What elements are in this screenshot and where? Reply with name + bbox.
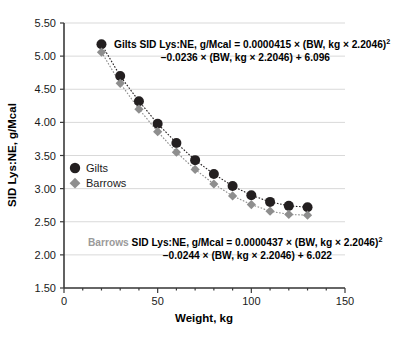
data-point-gilts	[171, 138, 181, 148]
y-tick-label: 5.50	[35, 17, 56, 29]
y-tick-label: 5.00	[35, 50, 56, 62]
data-point-barrows	[247, 200, 256, 209]
y-tick-label: 4.50	[35, 83, 56, 95]
data-point-barrows	[303, 211, 312, 220]
legend-marker-barrows	[70, 178, 81, 189]
y-tick-label: 3.50	[35, 150, 56, 162]
barrows-equation-line-1: Barrows SID Lys:NE, g/Mcal = 0.0000437 ×…	[88, 235, 382, 248]
legend-marker-gilts	[70, 163, 80, 173]
x-tick-label: 50	[152, 295, 164, 307]
legend: Gilts Barrows	[70, 162, 127, 189]
data-point-gilts	[190, 155, 200, 165]
series-markers	[96, 39, 312, 220]
data-point-gilts	[265, 197, 275, 207]
x-axis-title: Weight, kg	[175, 312, 233, 324]
x-tick-label: 100	[242, 295, 260, 307]
barrows-equation-line-2: −0.0244 × (BW, kg × 2.2046) + 6.022	[163, 250, 333, 261]
x-tick-label: 0	[61, 295, 67, 307]
data-point-barrows	[228, 191, 237, 200]
data-point-gilts	[209, 169, 219, 179]
data-point-gilts	[284, 201, 294, 211]
series-line-gilts	[101, 44, 307, 207]
x-axis-tick-labels: 050100150	[61, 295, 354, 307]
data-point-gilts	[246, 190, 256, 200]
y-axis-title: SID Lys:NE, g/Mcal	[6, 103, 18, 207]
legend-label-barrows: Barrows	[86, 177, 127, 189]
data-point-barrows	[284, 210, 293, 219]
y-tick-label: 2.00	[35, 249, 56, 261]
x-tick-label: 150	[336, 295, 354, 307]
chart-container: 1.502.002.503.003.504.004.505.005.50 050…	[0, 0, 412, 337]
y-axis-tick-labels: 1.502.002.503.003.504.004.505.005.50	[35, 17, 56, 294]
y-tick-label: 2.50	[35, 216, 56, 228]
data-point-barrows	[191, 165, 200, 174]
data-point-barrows	[209, 179, 218, 188]
y-tick-label: 1.50	[35, 282, 56, 294]
data-point-gilts	[228, 181, 238, 191]
chart-canvas: 1.502.002.503.003.504.004.505.005.50 050…	[0, 0, 412, 337]
gilts-equation-line-1: Gilts SID Lys:NE, g/Mcal = 0.0000415 × (…	[114, 37, 390, 50]
legend-label-gilts: Gilts	[86, 162, 109, 174]
y-tick-label: 4.00	[35, 116, 56, 128]
gilts-equation-line-2: −0.0236 × (BW, kg × 2.2046) + 6.096	[161, 52, 331, 63]
series-line-barrows	[101, 52, 307, 215]
y-tick-label: 3.00	[35, 183, 56, 195]
data-point-barrows	[265, 207, 274, 216]
barrows-equation-annotation: Barrows SID Lys:NE, g/Mcal = 0.0000437 ×…	[88, 235, 382, 261]
series-lines	[101, 44, 307, 215]
data-point-barrows	[97, 48, 106, 57]
gilts-equation-annotation: Gilts SID Lys:NE, g/Mcal = 0.0000415 × (…	[114, 37, 390, 63]
